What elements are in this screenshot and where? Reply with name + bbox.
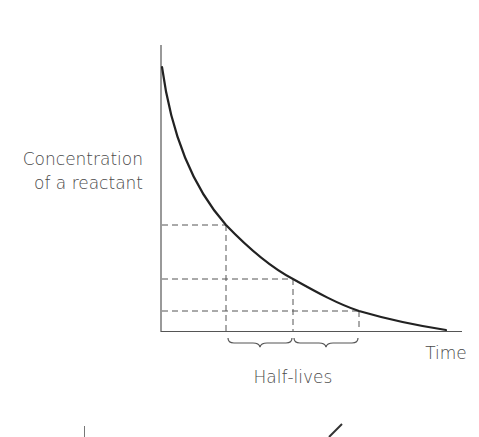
half-life-braces: [228, 338, 358, 347]
half-life-chart: Concentration of a reactant Time Half-li…: [0, 0, 479, 437]
fragment-diagonal-mark: [329, 424, 342, 437]
y-axis-label-line1: Concentration: [23, 149, 143, 169]
y-axis-label-line2: of a reactant: [34, 173, 143, 193]
half-lives-label: Half-lives: [254, 367, 333, 387]
half-life-guides: [162, 225, 359, 331]
x-axis-label: Time: [425, 343, 467, 363]
decay-curve: [162, 67, 446, 330]
